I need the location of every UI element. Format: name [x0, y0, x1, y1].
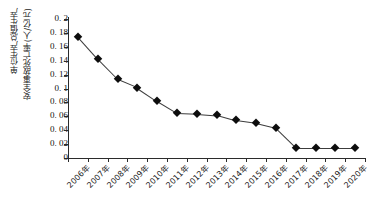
line-chart: 单位生产总值生产 安全事故死亡率(人/亿元) 0. 20. 180. 160. … [0, 0, 386, 214]
y-axis-title-line-1: 单位生产总值生产 [11, 8, 19, 74]
data-point-marker [212, 111, 221, 120]
y-axis-title-line-2: 安全事故死亡率(人/亿元) [24, 8, 32, 100]
data-point-marker [351, 143, 360, 152]
data-point-marker [192, 109, 201, 118]
data-point-marker [252, 119, 261, 128]
data-point-marker [331, 143, 340, 152]
x-axis-tick-labels: 2006年2007年2008年2009年2010年2011年2012年2013年… [68, 160, 366, 214]
data-point-marker [173, 108, 182, 117]
plot-area [68, 19, 365, 158]
data-point-marker [311, 143, 320, 152]
data-point-marker [113, 75, 122, 84]
data-point-marker [232, 116, 241, 125]
